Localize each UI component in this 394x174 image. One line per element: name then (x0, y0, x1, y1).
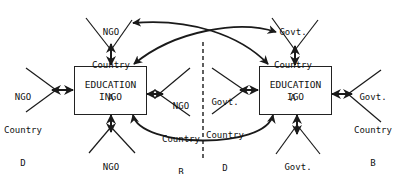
label-line: NGO (156, 101, 206, 112)
label-line: A (86, 93, 136, 104)
label-line: Govt. (268, 27, 318, 38)
ngo-country-b-label: NGO Country B (156, 79, 206, 174)
label-line: D (200, 163, 250, 174)
govt-a-to-ingo-curve (134, 27, 276, 64)
label-line: B (348, 158, 394, 169)
govt-country-d-label: Govt. Country D (200, 75, 250, 174)
label-line: NGO (86, 162, 136, 173)
label-line: Govt. (273, 162, 323, 173)
label-line: Country (348, 125, 394, 136)
ngo-country-c-label: NGO Country C (86, 140, 136, 174)
ngo-a-to-igo-curve (133, 22, 268, 64)
ngo-country-d-label: NGO Country D (0, 70, 48, 174)
label-line: Country (0, 125, 48, 136)
label-line: B (156, 167, 206, 174)
label-line: NGO (0, 92, 48, 103)
label-line: Country (268, 60, 318, 71)
label-line: Country (200, 130, 250, 141)
govt-country-a-label: Govt. Country A (268, 5, 318, 115)
label-line: D (0, 158, 48, 169)
ngo-country-a-label: NGO Country A (86, 5, 136, 115)
label-line: Govt. (348, 92, 394, 103)
govt-country-b-label: Govt. Country B (348, 70, 394, 174)
label-line: NGO (86, 27, 136, 38)
label-line: Country (86, 60, 136, 71)
govt-country-c-label: Govt. Country C (273, 140, 323, 174)
label-line: Country (156, 134, 206, 145)
label-line: A (268, 93, 318, 104)
label-line: Govt. (200, 97, 250, 108)
